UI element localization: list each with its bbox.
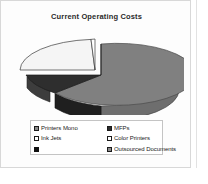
legend-label-ink-jets: Ink Jets: [41, 135, 61, 142]
chart-frame: Current Operating Costs: [0, 0, 191, 168]
legend-swatch-mfps: [107, 126, 112, 131]
chart-legend: Printers Mono Ink Jets MFPs Color Printe…: [30, 120, 163, 155]
slice-ink-jets: [20, 39, 95, 70]
legend-label-outsourced-documents: Outsourced Documents: [114, 146, 176, 153]
legend-item-color-printers[interactable]: Color Printers: [107, 134, 197, 144]
legend-column-right: MFPs Color Printers Outsourced Documents: [107, 123, 197, 155]
legend-item-printers-mono[interactable]: Printers Mono: [34, 123, 104, 133]
legend-swatch-unlabeled: [34, 147, 39, 152]
legend-item-ink-jets[interactable]: Ink Jets: [34, 134, 104, 144]
legend-item-outsourced-documents[interactable]: Outsourced Documents: [107, 144, 197, 154]
chart-title: Current Operating Costs: [1, 12, 192, 21]
legend-label-printers-mono: Printers Mono: [41, 125, 78, 132]
legend-label-color-printers: Color Printers: [114, 135, 150, 142]
legend-swatch-ink-jets: [34, 136, 39, 141]
pie-chart: [9, 35, 184, 115]
legend-item-mfps[interactable]: MFPs: [107, 123, 197, 133]
exploded-slice-group: [20, 39, 95, 70]
outer-frame-right-edge: [196, 0, 208, 168]
legend-column-left: Printers Mono Ink Jets: [34, 123, 104, 155]
legend-swatch-color-printers: [107, 136, 112, 141]
legend-swatch-printers-mono: [34, 126, 39, 131]
legend-label-mfps: MFPs: [114, 125, 129, 132]
legend-swatch-outsourced-documents: [107, 147, 112, 152]
legend-item-unlabeled[interactable]: [34, 144, 104, 154]
pie-svg: [9, 35, 184, 115]
